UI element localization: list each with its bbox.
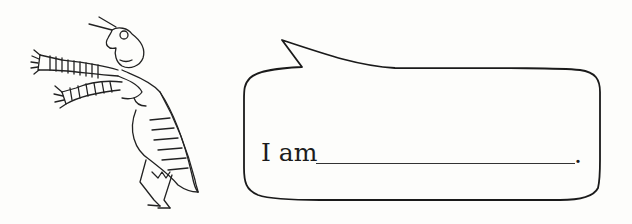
end-period: . <box>574 142 582 167</box>
worksheet-art <box>0 0 632 224</box>
grasshopper-illustration <box>31 17 198 208</box>
prompt-text: I am <box>261 140 317 165</box>
speech-bubble-outline <box>244 40 600 200</box>
answer-blank-line[interactable] <box>316 163 575 164</box>
